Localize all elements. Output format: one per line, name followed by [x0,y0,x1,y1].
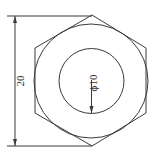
height-dimension-label: 20 [14,75,26,87]
dimension-arrow-up-icon [13,16,17,23]
diameter-label: ϕ10 [87,74,99,91]
hex-nut-drawing: 20 ϕ10 [0,0,156,158]
diameter-arrow-icon [90,106,94,114]
dimension-arrow-down-icon [13,139,17,146]
